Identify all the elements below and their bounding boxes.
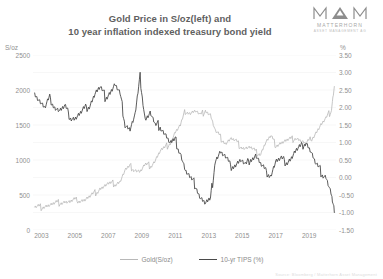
left-axis-tick-label: 1500 xyxy=(16,122,30,129)
x-axis-tick-label: 2005 xyxy=(60,232,90,239)
left-axis-tick-label: 2500 xyxy=(16,52,30,59)
right-axis-tick-label: 0.00 xyxy=(339,174,352,181)
left-axis-tick-label: 1000 xyxy=(16,157,30,164)
legend-item[interactable]: 10-yr TIPS (%) xyxy=(199,256,264,263)
legend-item-label: 10-yr TIPS (%) xyxy=(221,256,264,263)
series-line-gold xyxy=(35,87,335,211)
legend: Gold(S/oz)10-yr TIPS (%) xyxy=(0,256,383,263)
right-axis-tick-label: 3.00 xyxy=(339,69,352,76)
x-axis-tick-label: 2015 xyxy=(227,232,257,239)
right-axis-tick-label: 0.50 xyxy=(339,157,352,164)
legend-swatch-icon xyxy=(199,259,217,260)
page-title-line-1: Gold Price in S/oz(left) and xyxy=(40,12,300,25)
legend-item[interactable]: Gold(S/oz) xyxy=(120,256,173,263)
legend-item-label: Gold(S/oz) xyxy=(142,256,173,263)
x-axis-tick-label: 2019 xyxy=(294,232,324,239)
x-axis-tick-label: 2007 xyxy=(93,232,123,239)
x-axis-tick-label: 2003 xyxy=(26,232,56,239)
x-axis-tick-label: 2011 xyxy=(160,232,190,239)
plot-area xyxy=(33,55,336,230)
x-axis-ticks: 200320052007200920112013201520172019 xyxy=(0,232,383,246)
gold-tips-chart: Gold Price in S/oz(left) and 10 year inf… xyxy=(0,0,383,279)
right-axis-tick-label: 2.50 xyxy=(339,87,352,94)
footer-credit: Source: Bloomberg / Matterhorn Asset Man… xyxy=(275,272,377,277)
x-axis-tick-label: 2013 xyxy=(194,232,224,239)
page-title: Gold Price in S/oz(left) and 10 year inf… xyxy=(40,12,300,38)
gridlines xyxy=(33,55,336,230)
left-axis-tick-label: 500 xyxy=(19,192,30,199)
left-axis-tick-label: 2000 xyxy=(16,87,30,94)
right-axis-tick-label: -1.00 xyxy=(339,209,354,216)
right-axis-tick-label: 2.00 xyxy=(339,104,352,111)
x-axis-tick-label: 2009 xyxy=(127,232,157,239)
right-axis-tick-label: 3.50 xyxy=(339,52,352,59)
x-axis-tick-label: 2017 xyxy=(261,232,291,239)
right-axis-tick-label: 1.00 xyxy=(339,139,352,146)
right-axis-tick-label: -0.50 xyxy=(339,192,354,199)
legend-swatch-icon xyxy=(120,259,138,260)
right-axis-tick-label: 1.50 xyxy=(339,122,352,129)
page-title-line-2: 10 year inflation indexed treasury bond … xyxy=(40,25,300,38)
